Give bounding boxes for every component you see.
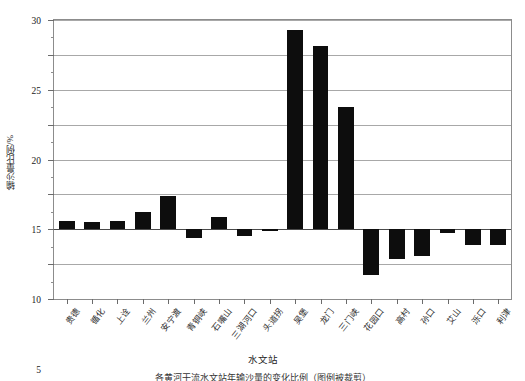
x-tick-label: 利津 bbox=[493, 305, 514, 327]
x-tick-label: 头道拐 bbox=[259, 305, 285, 334]
x-tick bbox=[321, 299, 322, 304]
y-minor-tick bbox=[51, 177, 54, 178]
y-tick: 10 bbox=[48, 160, 54, 161]
y-tick-label: 10 bbox=[32, 295, 42, 305]
x-axis-title: 水文站 bbox=[0, 352, 525, 366]
x-tick bbox=[473, 299, 474, 304]
x-tick bbox=[422, 299, 423, 304]
gridline bbox=[54, 20, 511, 21]
y-minor-tick bbox=[51, 142, 54, 143]
x-tick-label: 泺口 bbox=[468, 305, 489, 327]
gridline bbox=[54, 55, 511, 56]
y-tick: -5 bbox=[48, 264, 54, 265]
x-tick-label: 青铜峡 bbox=[183, 305, 209, 334]
x-tick bbox=[143, 299, 144, 304]
x-tick-label: 安宁渡 bbox=[158, 305, 184, 334]
y-minor-tick bbox=[51, 107, 54, 108]
gridline bbox=[54, 264, 511, 265]
y-tick: 5 bbox=[48, 194, 54, 195]
bar bbox=[490, 229, 506, 244]
x-tick bbox=[448, 299, 449, 304]
bar bbox=[440, 229, 456, 233]
y-tick-label: 25 bbox=[32, 86, 42, 96]
y-minor-tick bbox=[51, 212, 54, 213]
x-tick bbox=[498, 299, 499, 304]
y-tick: 15 bbox=[48, 125, 54, 126]
x-tick-label: 上诠 bbox=[112, 305, 133, 327]
bar bbox=[363, 229, 379, 274]
x-tick bbox=[67, 299, 68, 304]
x-tick bbox=[371, 299, 372, 304]
x-tick bbox=[168, 299, 169, 304]
x-tick-label: 艾山 bbox=[442, 305, 463, 327]
bar bbox=[135, 212, 151, 229]
y-tick-label: 20 bbox=[32, 156, 42, 166]
x-tick bbox=[117, 299, 118, 304]
y-minor-tick bbox=[51, 37, 54, 38]
plot-area: -10-5051015202530 bbox=[53, 19, 512, 300]
bar bbox=[211, 217, 227, 229]
x-tick bbox=[92, 299, 93, 304]
y-tick: 20 bbox=[48, 90, 54, 91]
figure-caption: 各黄河干流水文站年输沙量的变化比例（图例被裁剪） bbox=[0, 371, 525, 381]
x-tick bbox=[346, 299, 347, 304]
x-tick-label: 花园口 bbox=[361, 305, 387, 334]
x-tick bbox=[194, 299, 195, 304]
bar bbox=[262, 229, 278, 230]
x-tick-label: 吴堡 bbox=[290, 305, 311, 327]
y-tick: 25 bbox=[48, 55, 54, 56]
y-tick-label: 15 bbox=[32, 225, 42, 235]
bar bbox=[110, 221, 126, 229]
x-tick-label: 贵德 bbox=[62, 305, 83, 327]
x-tick-label: 孙口 bbox=[417, 305, 438, 327]
bar bbox=[389, 229, 405, 258]
y-tick: -10 bbox=[48, 299, 54, 300]
x-tick-label: 兰州 bbox=[138, 305, 159, 327]
x-tick bbox=[244, 299, 245, 304]
x-tick bbox=[270, 299, 271, 304]
bar bbox=[313, 46, 329, 229]
y-minor-tick bbox=[51, 247, 54, 248]
y-minor-tick bbox=[51, 72, 54, 73]
gridline bbox=[54, 160, 511, 161]
bar bbox=[338, 107, 354, 229]
y-tick: 0 bbox=[48, 229, 54, 230]
gridline bbox=[54, 90, 511, 91]
y-tick-label: 30 bbox=[32, 16, 42, 26]
x-tick-label: 高村 bbox=[392, 305, 413, 327]
gridline bbox=[54, 194, 511, 195]
bar bbox=[414, 229, 430, 256]
bar bbox=[186, 229, 202, 237]
x-tick-label: 龙门 bbox=[315, 305, 336, 327]
bar bbox=[84, 222, 100, 229]
y-axis-title: 输沙量比例/% bbox=[2, 108, 18, 218]
bar bbox=[59, 221, 75, 229]
bar bbox=[287, 30, 303, 229]
bar bbox=[465, 229, 481, 244]
x-tick bbox=[219, 299, 220, 304]
figure-container: 输沙量比例/% -10-5051015202530 贵德循化上诠兰州安宁渡青铜峡… bbox=[0, 0, 525, 381]
x-tick-label: 循化 bbox=[87, 305, 108, 327]
x-tick bbox=[397, 299, 398, 304]
gridline bbox=[54, 125, 511, 126]
y-minor-tick bbox=[51, 282, 54, 283]
x-tick-label: 三门峡 bbox=[335, 305, 361, 334]
bar bbox=[237, 229, 253, 236]
x-tick bbox=[295, 299, 296, 304]
y-tick: 30 bbox=[48, 20, 54, 21]
bar bbox=[160, 196, 176, 229]
